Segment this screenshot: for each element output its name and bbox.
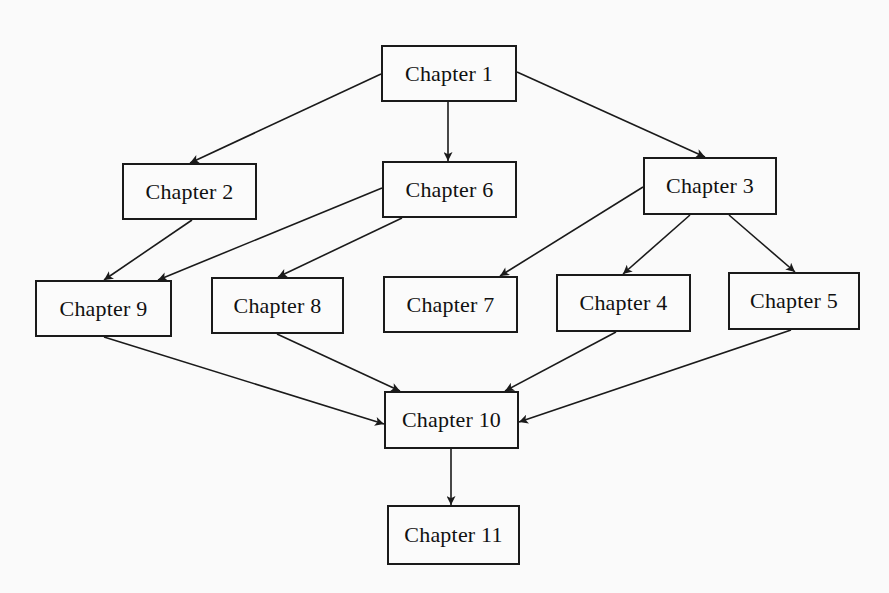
edge-ch8-to-ch10 bbox=[277, 334, 400, 391]
node-chapter-1: Chapter 1 bbox=[381, 45, 517, 102]
node-chapter-9: Chapter 9 bbox=[35, 280, 172, 337]
edge-ch6-to-ch8 bbox=[278, 218, 402, 277]
edge-ch3-to-ch7 bbox=[500, 187, 643, 276]
node-label: Chapter 3 bbox=[666, 173, 754, 199]
edge-ch3-to-ch4 bbox=[623, 215, 690, 274]
node-chapter-10: Chapter 10 bbox=[384, 391, 519, 449]
edge-ch4-to-ch10 bbox=[505, 332, 616, 391]
node-label: Chapter 9 bbox=[60, 296, 148, 322]
node-chapter-7: Chapter 7 bbox=[383, 276, 518, 333]
node-label: Chapter 8 bbox=[234, 293, 322, 319]
node-chapter-5: Chapter 5 bbox=[728, 272, 860, 330]
node-label: Chapter 10 bbox=[402, 407, 501, 433]
edge-ch9-to-ch10 bbox=[104, 337, 384, 424]
edge-ch3-to-ch5 bbox=[729, 215, 795, 272]
edge-ch5-to-ch10 bbox=[519, 330, 791, 422]
node-chapter-2: Chapter 2 bbox=[122, 163, 257, 220]
node-label: Chapter 5 bbox=[750, 288, 838, 314]
node-chapter-4: Chapter 4 bbox=[556, 274, 691, 332]
chapter-dependency-diagram: Chapter 1 Chapter 2 Chapter 6 Chapter 3 … bbox=[0, 0, 889, 593]
node-chapter-3: Chapter 3 bbox=[643, 157, 777, 215]
edge-ch1-to-ch2 bbox=[190, 74, 381, 163]
node-label: Chapter 4 bbox=[580, 290, 668, 316]
node-label: Chapter 1 bbox=[405, 61, 493, 87]
edge-ch1-to-ch3 bbox=[517, 72, 705, 157]
node-label: Chapter 6 bbox=[406, 177, 494, 203]
node-chapter-11: Chapter 11 bbox=[387, 505, 520, 565]
node-label: Chapter 11 bbox=[404, 522, 502, 548]
node-label: Chapter 7 bbox=[407, 292, 495, 318]
node-chapter-6: Chapter 6 bbox=[382, 161, 517, 218]
node-chapter-8: Chapter 8 bbox=[211, 277, 344, 334]
node-label: Chapter 2 bbox=[146, 179, 234, 205]
